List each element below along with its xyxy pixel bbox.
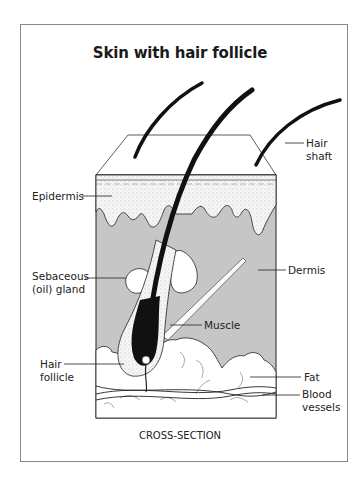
label-blood-vessels: Blood vessels — [302, 388, 340, 414]
label-dermis: Dermis — [288, 264, 325, 277]
label-hair-shaft-line2: shaft — [306, 150, 332, 163]
label-blood-line1: Blood — [302, 388, 340, 401]
label-hair-shaft: Hair shaft — [306, 137, 332, 163]
label-follicle-line1: Hair — [40, 358, 74, 371]
label-blood-line2: vessels — [302, 401, 340, 414]
label-sebaceous-gland: Sebaceous (oil) gland — [32, 270, 89, 296]
label-hair-follicle: Hair follicle — [40, 358, 74, 384]
figure-caption: CROSS-SECTION — [0, 430, 360, 441]
label-epidermis: Epidermis — [32, 190, 84, 203]
label-muscle: Muscle — [204, 319, 240, 332]
skin-surface — [96, 135, 276, 175]
label-sebaceous-line2: (oil) gland — [32, 283, 89, 296]
label-sebaceous-line1: Sebaceous — [32, 270, 89, 283]
label-fat: Fat — [304, 371, 320, 384]
label-hair-shaft-line1: Hair — [306, 137, 332, 150]
label-follicle-line2: follicle — [40, 371, 74, 384]
